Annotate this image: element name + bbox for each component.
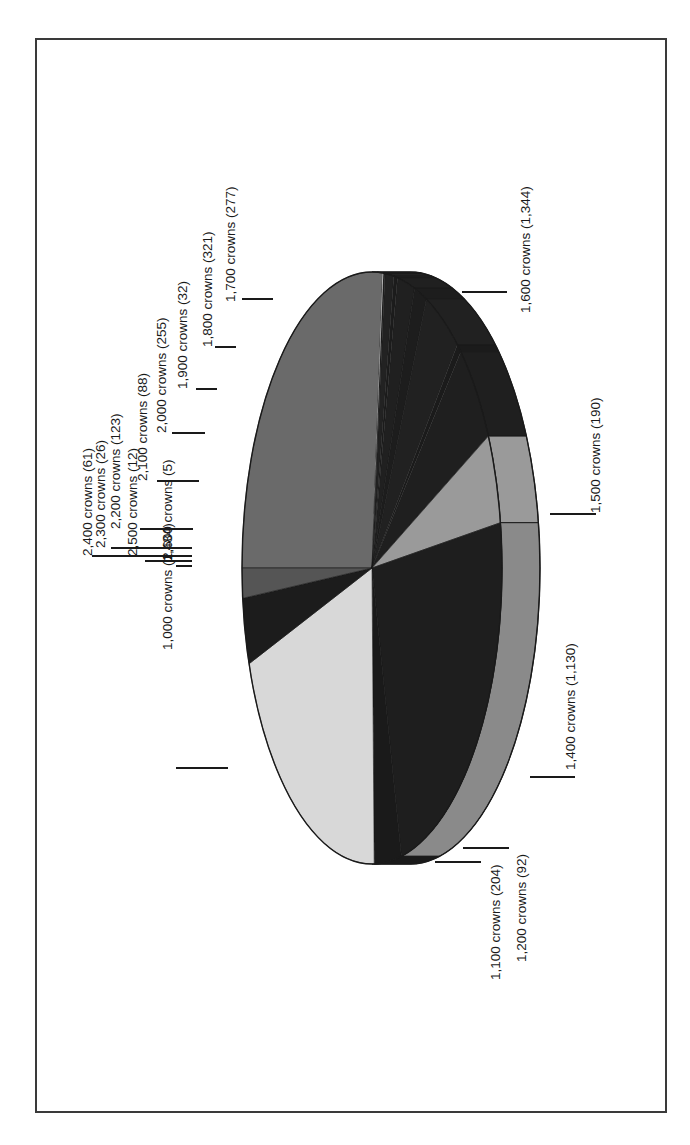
slice-label: 1,200 crowns (92) <box>514 854 529 962</box>
slice-label: 1,600 crowns (1,344) <box>518 186 533 313</box>
pie-slices <box>242 272 502 864</box>
slice-label: 1,700 crowns (277) <box>223 186 238 302</box>
slice-label: 1,900 crowns (32) <box>175 281 190 389</box>
pie-slice <box>242 272 383 568</box>
slice-label: 1,100 crowns (204) <box>488 864 503 980</box>
slice-label: 1,800 crowns (321) <box>200 231 215 347</box>
slice-label: 2,300 crowns (26) <box>93 440 108 548</box>
slice-label: 2,600 crowns (5) <box>160 459 175 560</box>
slice-label: 1,400 crowns (1,130) <box>563 643 578 770</box>
slice-label: 2,000 crowns (255) <box>154 317 169 433</box>
pie-side-segment <box>457 345 499 352</box>
pie-chart: 1,000 crowns (1,484)2,600 crowns (5)2,50… <box>0 0 690 1145</box>
slice-label: 1,500 crowns (190) <box>588 397 603 513</box>
slice-label: 2,200 crowns (123) <box>108 413 123 529</box>
slice-label: 2,100 crowns (88) <box>135 373 150 481</box>
